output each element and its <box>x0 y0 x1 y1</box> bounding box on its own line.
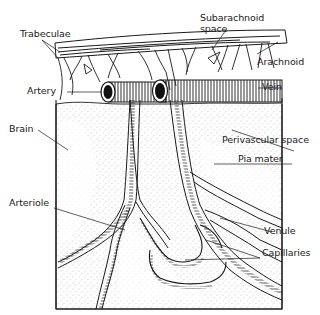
label-pia-mater: Pia mater <box>238 153 283 164</box>
label-subarachnoid-space-line2: space <box>200 23 227 34</box>
arachnoid-membrane <box>55 30 287 58</box>
label-artery: Artery <box>27 85 56 96</box>
label-vein: Vein <box>262 81 282 92</box>
label-arachnoid: Arachnoid <box>257 56 304 67</box>
label-trabeculae: Trabeculae <box>20 28 71 39</box>
label-perivascular-space: Perivascular space <box>222 134 309 145</box>
label-brain: Brain <box>9 123 33 134</box>
label-capillaries: Capillaries <box>262 247 310 258</box>
label-arteriole: Arteriole <box>9 197 49 208</box>
label-venule: Venule <box>264 225 296 236</box>
label-subarachnoid-space-line1: Subarachnoid <box>200 12 264 23</box>
